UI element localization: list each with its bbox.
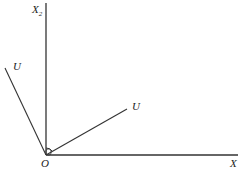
vector-right bbox=[46, 109, 127, 155]
vector-left-label: U bbox=[13, 61, 21, 72]
diagram-lines bbox=[0, 0, 243, 175]
vector-right-label: U bbox=[132, 101, 140, 112]
vector-left bbox=[5, 68, 46, 155]
diagram-canvas: X2 X O U U bbox=[0, 0, 243, 175]
vertical-axis-label: X2 bbox=[32, 4, 42, 18]
horizontal-axis-label: X bbox=[230, 158, 237, 169]
origin-label: O bbox=[41, 158, 49, 169]
